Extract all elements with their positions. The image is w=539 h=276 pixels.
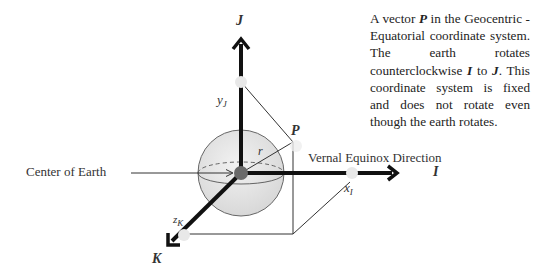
center-of-earth-label: Center of Earth: [26, 164, 106, 180]
diagram-caption: A vector P in the Geocentric - Equatoria…: [370, 10, 530, 130]
caption-symbol-j: J: [492, 63, 499, 78]
axis-j-label: J: [236, 13, 243, 29]
caption-symbol-p: P: [419, 11, 427, 26]
z-component-marker: [178, 229, 190, 241]
z-component-sub: K: [177, 218, 183, 228]
z-component-label: zK: [173, 213, 183, 228]
x-component-sub: I: [350, 187, 353, 197]
axis-k-label: K: [152, 251, 161, 267]
center-of-earth-dot: [234, 166, 248, 180]
x-component-marker: [346, 167, 358, 179]
radius-label: r: [258, 144, 263, 159]
x-component-label: xI: [344, 180, 353, 197]
p-point-marker: [290, 140, 302, 152]
vector-p-label: P: [291, 123, 300, 139]
y-component-sub: J: [223, 99, 227, 109]
caption-text: to: [472, 63, 492, 78]
caption-text: A vector: [370, 11, 419, 26]
vernal-equinox-label: Vernal Equinox Direction: [308, 150, 442, 166]
y-component-label: yJ: [217, 92, 227, 109]
y-component-marker: [235, 76, 247, 88]
axis-i-label: I: [433, 164, 438, 180]
